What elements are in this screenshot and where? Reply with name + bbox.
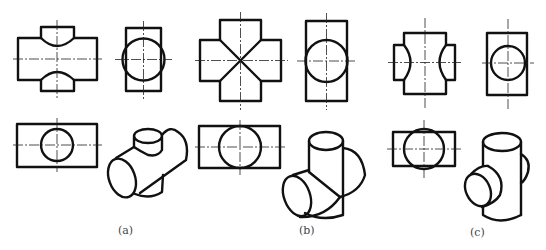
panel-a: (a) <box>13 20 187 237</box>
panel-b-front-view <box>195 12 288 110</box>
technical-drawing-canvas: (a) <box>0 0 546 250</box>
panel-c-top-view <box>387 120 463 179</box>
panel-b-side-view <box>297 13 356 110</box>
panel-a-caption: (a) <box>118 224 133 237</box>
panel-c: (c) <box>387 18 534 239</box>
panel-b-caption: (b) <box>299 224 315 237</box>
panel-a-isometric <box>103 129 187 201</box>
panel-c-isometric <box>460 133 529 221</box>
panel-b-isometric <box>278 132 365 220</box>
panel-a-top-view <box>13 118 102 172</box>
panel-c-front-view <box>388 18 461 110</box>
panel-b-top-view <box>195 120 286 175</box>
panel-c-side-view <box>482 19 534 109</box>
panel-a-side-view <box>115 21 172 101</box>
panel-b: (b) <box>195 12 365 237</box>
panel-c-caption: (c) <box>470 226 485 239</box>
panel-a-front-view <box>13 20 102 98</box>
